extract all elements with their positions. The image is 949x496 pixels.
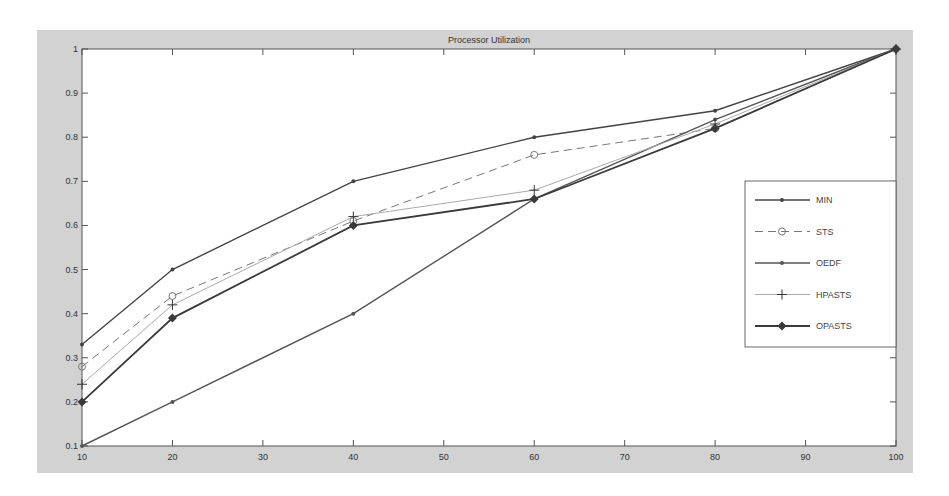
legend-label: STS [816,227,834,237]
legend-label: MIN [816,195,833,205]
x-tick-label: 70 [620,452,630,462]
legend-label: OEDF [816,258,842,268]
y-tick-label: 0.8 [65,132,78,142]
x-tick-label: 30 [258,452,268,462]
x-tick-label: 40 [348,452,358,462]
x-tick-label: 80 [710,452,720,462]
x-tick-label: 20 [167,452,177,462]
y-tick-label: 0.6 [65,220,78,230]
x-tick-label: 100 [888,452,903,462]
y-tick-label: 1 [73,44,78,54]
legend: MINSTSOEDFHPASTSOPASTS [745,181,896,347]
line-chart: Processor Utilization 102030405060708090… [0,0,949,496]
chart-title: Processor Utilization [448,35,530,45]
y-tick-label: 0.4 [65,309,78,319]
legend-label: HPASTS [816,290,851,300]
legend-label: OPASTS [816,321,852,331]
y-tick-label: 0.5 [65,265,78,275]
x-tick-label: 90 [801,452,811,462]
x-tick-label: 50 [439,452,449,462]
y-tick-label: 0.2 [65,397,78,407]
x-tick-label: 60 [529,452,539,462]
y-tick-label: 0.1 [65,441,78,451]
y-tick-label: 0.7 [65,176,78,186]
x-tick-label: 10 [77,452,87,462]
y-tick-label: 0.9 [65,88,78,98]
y-tick-label: 0.3 [65,353,78,363]
